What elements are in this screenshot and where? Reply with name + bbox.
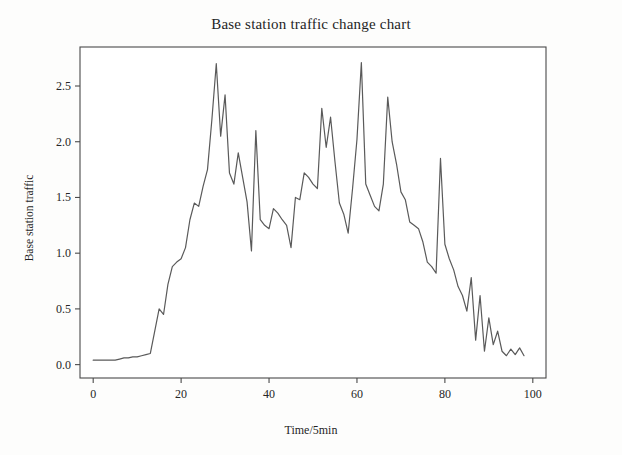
svg-text:0: 0 [90,387,96,401]
svg-text:2.5: 2.5 [56,79,71,93]
svg-text:2.0: 2.0 [56,135,71,149]
y-axis-ticks: 0.00.51.01.52.02.5 [56,79,80,372]
svg-text:1.0: 1.0 [56,246,71,260]
svg-text:40: 40 [263,387,275,401]
chart-figure: Base station traffic change chart 0.00.5… [0,0,622,455]
svg-text:1.5: 1.5 [56,190,71,204]
svg-text:80: 80 [439,387,451,401]
svg-text:0.0: 0.0 [56,358,71,372]
svg-text:100: 100 [524,387,542,401]
svg-text:20: 20 [175,387,187,401]
plot-border [80,47,546,378]
line-chart-plot: 0.00.51.01.52.02.5 020406080100 [0,0,622,455]
svg-text:0.5: 0.5 [56,302,71,316]
x-axis-label: Time/5min [0,423,622,438]
x-axis-ticks: 020406080100 [90,378,542,401]
y-axis-label: Base station traffic [23,143,35,293]
svg-text:60: 60 [351,387,363,401]
